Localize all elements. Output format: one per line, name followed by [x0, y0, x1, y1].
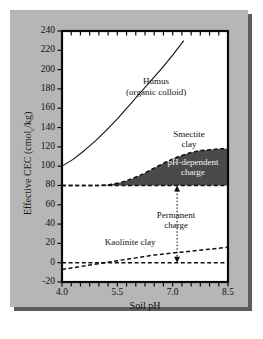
annotation-line-1: Permanent	[157, 210, 196, 221]
y-tick-label: 160	[0, 102, 55, 112]
series-line-kaolinite-clay	[62, 247, 228, 269]
annotation-line-1: pH-dependent	[167, 157, 218, 168]
annotation-kaolinite-label: Kaolinite clay	[105, 237, 156, 248]
y-tick-label: 40	[0, 218, 55, 228]
x-tick-label: 5.5	[97, 287, 137, 297]
annotation-line-1: Kaolinite clay	[105, 237, 156, 248]
annotation-line-1: Smectite	[173, 129, 205, 140]
y-tick-label: -20	[0, 276, 55, 286]
x-tick-label: 8.5	[208, 287, 248, 297]
annotation-line-2: charge	[167, 167, 218, 178]
annotation-permanent-charge-label: Permanentcharge	[157, 210, 196, 231]
y-tick-label: 80	[0, 179, 55, 189]
y-tick-label: 180	[0, 83, 55, 93]
figure-container: Effective CEC (cmolc/kg) Soil pH 2402202…	[0, 0, 263, 339]
y-tick-label: 140	[0, 122, 55, 132]
x-tick-label: 7.0	[153, 287, 193, 297]
permanent-charge-arrowhead-bottom	[174, 257, 180, 263]
annotation-smectite-label: Smectiteclay	[173, 129, 205, 150]
y-tick-label: 200	[0, 64, 55, 74]
annotation-humus-label: Humus(organic colloid)	[126, 76, 186, 97]
y-tick-label: 20	[0, 237, 55, 247]
y-tick-label: 240	[0, 25, 55, 35]
annotation-line-2: clay	[173, 139, 205, 150]
annotation-line-2: charge	[157, 220, 196, 231]
y-tick-label: 120	[0, 141, 55, 151]
x-tick-label: 4.0	[42, 287, 82, 297]
y-tick-label: 0	[0, 257, 55, 267]
annotation-line-2: (organic colloid)	[126, 87, 186, 98]
y-tick-label: 100	[0, 160, 55, 170]
series-line-humus-organic-colloid	[62, 41, 184, 166]
permanent-charge-arrowhead-top	[174, 185, 180, 191]
y-tick-label: 60	[0, 199, 55, 209]
y-tick-label: 220	[0, 44, 55, 54]
annotation-line-1: Humus	[126, 76, 186, 87]
annotation-ph-dependent-charge-label: pH-dependentcharge	[167, 157, 218, 178]
